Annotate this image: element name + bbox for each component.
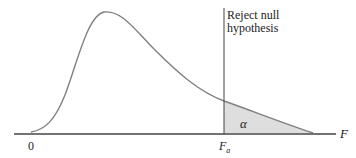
alpha-label: α (240, 116, 248, 131)
annotation-line-1: Reject null (227, 8, 280, 22)
axis-label: F (339, 126, 349, 141)
origin-label: 0 (28, 139, 34, 153)
f-distribution-diagram: Reject null hypothesis α 0 Fa F (0, 0, 356, 158)
critical-value-label: Fa (218, 139, 230, 155)
annotation-line-2: hypothesis (227, 21, 279, 35)
critical-label-sub: a (226, 146, 230, 155)
